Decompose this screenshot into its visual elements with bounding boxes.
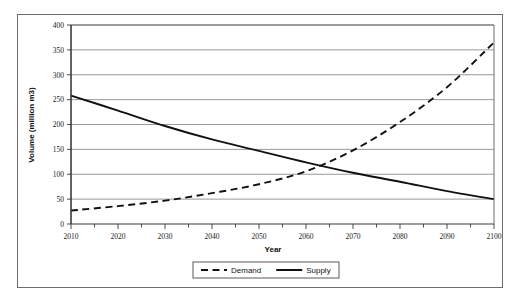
chart-legend: DemandSupply — [193, 262, 339, 278]
y-axis-title: Volume (million m3) — [27, 87, 36, 163]
x-tick-label: 2070 — [346, 232, 361, 241]
x-axis-title: Year — [265, 245, 282, 254]
y-tick-label: 0 — [60, 220, 64, 229]
x-tick-label: 2060 — [299, 232, 314, 241]
gridlines — [71, 25, 494, 199]
x-tick-label: 2030 — [158, 232, 173, 241]
y-tick-label: 400 — [53, 21, 65, 30]
data-series — [71, 42, 494, 210]
y-tick-label: 150 — [53, 145, 65, 154]
y-tick-label: 200 — [53, 120, 65, 129]
x-tick-labels: 2010202020302040205020602070208020902100 — [64, 232, 502, 241]
series-line-demand — [71, 42, 494, 210]
chart-figure: 050100150200250300350400 201020202030204… — [0, 0, 514, 303]
y-tick-label: 100 — [53, 170, 65, 179]
y-tick-label: 300 — [53, 71, 65, 80]
y-tick-label: 250 — [53, 95, 65, 104]
y-tick-label: 50 — [57, 195, 65, 204]
x-tick-label: 2090 — [440, 232, 455, 241]
y-tick-label: 350 — [53, 46, 65, 55]
x-minor-ticks — [71, 224, 494, 229]
x-tick-label: 2020 — [111, 232, 126, 241]
x-tick-label: 2010 — [64, 232, 79, 241]
x-tick-label: 2080 — [393, 232, 408, 241]
series-line-supply — [71, 96, 494, 199]
x-tick-label: 2100 — [487, 232, 502, 241]
x-tick-label: 2050 — [252, 232, 267, 241]
y-tick-labels: 050100150200250300350400 — [53, 21, 65, 229]
x-tick-label: 2040 — [205, 232, 220, 241]
legend-label-supply: Supply — [306, 266, 330, 275]
legend-label-demand: Demand — [231, 266, 261, 275]
chart-plot-area: 050100150200250300350400 201020202030204… — [0, 0, 514, 303]
